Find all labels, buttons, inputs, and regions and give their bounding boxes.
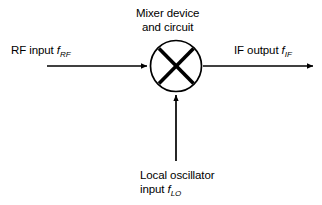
mixer-block-diagram: Mixer device and circuit RF input fRF IF…	[0, 0, 322, 205]
mixer-title-line-2: and circuit	[136, 20, 199, 34]
rf-input-label: RF input fRF	[11, 43, 71, 59]
rf-input-symbol-subscript: RF	[60, 50, 71, 59]
lo-input-label-line-2: input fLO	[140, 182, 214, 198]
rf-input-label-text: RF input	[11, 44, 54, 56]
lo-input-label-text: input	[140, 183, 164, 195]
if-output-symbol-subscript: IF	[285, 50, 292, 59]
lo-input-symbol-subscript: LO	[171, 189, 182, 198]
if-output-label-text: IF output	[234, 44, 279, 56]
mixer-title-line-1: Mixer device	[136, 6, 199, 20]
lo-input-label-line-1: Local oscillator	[140, 168, 214, 182]
if-output-label: IF output fIF	[234, 43, 292, 59]
lo-input-label: Local oscillator input fLO	[140, 168, 214, 198]
mixer-title-label: Mixer device and circuit	[136, 6, 199, 34]
